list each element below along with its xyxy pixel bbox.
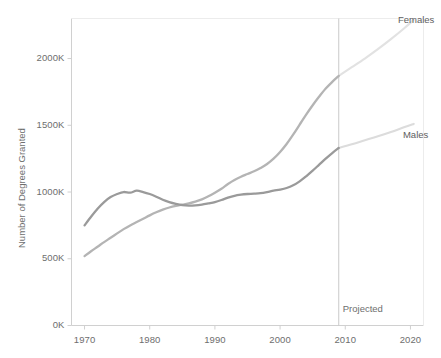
y-axis-title: Number of Degrees Granted — [16, 128, 27, 248]
series-label-males: Males — [403, 129, 428, 140]
y-tick-label: 500K — [42, 252, 65, 263]
y-tick-label: 0K — [53, 319, 65, 330]
plot-frame — [72, 19, 424, 326]
degrees-granted-line-chart: 0K500K1000K1500K2000K 197019801990200020… — [0, 0, 441, 358]
projected-annotation: Projected — [343, 303, 383, 314]
x-tick-label: 2020 — [390, 334, 430, 345]
x-tick-label: 1980 — [130, 334, 170, 345]
x-tick-label: 2010 — [325, 334, 365, 345]
x-tick-label: 2000 — [260, 334, 300, 345]
x-tick-marks — [85, 326, 411, 330]
series-line-females-projected — [339, 20, 414, 76]
series-label-females: Females — [398, 14, 434, 25]
x-tick-label: 1970 — [65, 334, 105, 345]
y-tick-label: 2000K — [37, 52, 65, 63]
x-tick-label: 1990 — [195, 334, 235, 345]
y-tick-label: 1000K — [37, 186, 65, 197]
series-line-males — [85, 148, 339, 225]
y-tick-marks — [68, 59, 72, 326]
series-line-females — [85, 76, 339, 256]
y-tick-label: 1500K — [37, 119, 65, 130]
